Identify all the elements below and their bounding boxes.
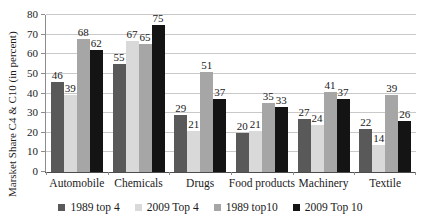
y-axis-tick (41, 34, 45, 35)
bar (139, 44, 152, 172)
legend-label: 1989 top10 (226, 201, 278, 213)
x-axis-tick (46, 172, 47, 175)
bar-value-label: 37 (330, 87, 356, 98)
y-axis-tick (41, 112, 45, 113)
x-axis-tick (231, 172, 232, 175)
bar (213, 99, 226, 172)
category-label: Chemicals (105, 177, 173, 189)
bar (372, 145, 385, 172)
bar (77, 39, 90, 172)
bar (324, 92, 337, 172)
y-axis-tick (41, 93, 45, 94)
bar (385, 95, 398, 172)
x-axis-tick (108, 172, 109, 175)
bar-value-label: 26 (392, 109, 418, 120)
legend-item: 2009 Top 10 (293, 201, 363, 213)
bar-value-label: 75 (145, 13, 171, 24)
x-axis-tick (415, 172, 416, 175)
bar (262, 103, 275, 172)
bar (337, 99, 350, 172)
y-tick-label: 40 (12, 88, 38, 99)
y-axis-tick (41, 14, 45, 15)
y-tick-label: 70 (12, 29, 38, 40)
y-tick-label: 30 (12, 107, 38, 118)
bar-value-label: 29 (168, 103, 194, 114)
legend-label: 2009 Top 10 (305, 201, 363, 213)
legend-item: 1989 top 4 (58, 201, 119, 213)
bar (152, 25, 165, 172)
y-tick-label: 60 (12, 48, 38, 59)
bar (236, 133, 249, 172)
category-label: Machinery (290, 177, 358, 189)
y-axis-tick (41, 53, 45, 54)
y-axis-tick (41, 151, 45, 152)
y-axis-tick (41, 171, 45, 172)
bar-value-label: 39 (379, 83, 405, 94)
legend-item: 2009 Top 4 (135, 201, 199, 213)
y-axis-line (45, 15, 46, 172)
bar (64, 95, 77, 172)
bar-value-label: 22 (353, 117, 379, 128)
x-axis-tick (354, 172, 355, 175)
bar-value-label: 37 (207, 87, 233, 98)
legend-item: 1989 top10 (214, 201, 278, 213)
market-share-bar-chart: Marsket Share C4 & C10 (in percent) 0102… (0, 0, 421, 224)
y-tick-label: 50 (12, 68, 38, 79)
legend-label: 1989 top 4 (70, 201, 119, 213)
y-axis-tick (41, 132, 45, 133)
category-label: Automobile (43, 177, 111, 189)
category-label: Drugs (166, 177, 234, 189)
y-tick-label: 20 (12, 127, 38, 138)
legend-marker-icon (214, 204, 221, 211)
bar (275, 107, 288, 172)
category-label: Textile (351, 177, 419, 189)
gridline (46, 34, 416, 35)
bar (126, 41, 139, 172)
legend-marker-icon (58, 204, 65, 211)
bar (187, 131, 200, 172)
bar (298, 119, 311, 172)
category-label: Food products (228, 177, 296, 189)
bar (398, 121, 411, 172)
legend-marker-icon (293, 204, 300, 211)
y-tick-label: 80 (12, 9, 38, 20)
legend: 1989 top 42009 Top 41989 top102009 Top 1… (0, 201, 421, 213)
y-tick-label: 10 (12, 146, 38, 157)
bar (249, 131, 262, 172)
plot-area: 0102030405060708046396862Automobile55676… (46, 15, 416, 172)
bar (311, 125, 324, 172)
bar (51, 82, 64, 172)
bar-value-label: 62 (83, 38, 109, 49)
gridline (46, 14, 416, 15)
bar-value-label: 33 (268, 95, 294, 106)
bar-value-label: 51 (194, 60, 220, 71)
legend-marker-icon (135, 204, 142, 211)
bar (113, 64, 126, 172)
bar (90, 50, 103, 172)
legend-label: 2009 Top 4 (147, 201, 199, 213)
y-tick-label: 0 (12, 166, 38, 177)
x-axis-tick (169, 172, 170, 175)
bar-value-label: 46 (44, 70, 70, 81)
x-axis-tick (293, 172, 294, 175)
